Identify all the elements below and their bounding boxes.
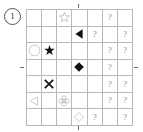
question-mark-icon: ? xyxy=(108,62,112,71)
question-mark-icon: ? xyxy=(123,46,127,55)
right-center-tick xyxy=(134,67,138,68)
grid-cell-unknown-r4c6[interactable]: ? xyxy=(103,60,118,77)
puzzle-index-badge: 1 xyxy=(4,8,21,25)
star-filled-icon xyxy=(43,44,56,57)
grid-cell-empty-r5c4[interactable] xyxy=(72,76,87,93)
grid-cell-unknown-r5c7[interactable]: ? xyxy=(118,76,133,93)
cross-x-filled-icon xyxy=(43,78,55,90)
grid-cell-shape-r3c2[interactable] xyxy=(42,43,57,60)
puzzle-grid[interactable]: ???????????? xyxy=(26,9,133,126)
grid-cell-unknown-r7c7[interactable]: ? xyxy=(118,109,133,126)
question-mark-icon: ? xyxy=(108,46,112,55)
question-mark-icon: ? xyxy=(123,29,127,38)
grid-cell-empty-r4c2[interactable] xyxy=(42,60,57,77)
question-mark-icon: ? xyxy=(123,79,127,88)
grid-cell-empty-r6c2[interactable] xyxy=(42,93,57,110)
grid-cell-empty-r1c2[interactable] xyxy=(42,10,57,27)
left-center-tick xyxy=(20,67,24,68)
question-mark-icon: ? xyxy=(93,29,97,38)
grid-cell-empty-r6c4[interactable] xyxy=(72,93,87,110)
flower-outline-icon xyxy=(58,95,70,107)
grid-cell-unknown-r6c7[interactable]: ? xyxy=(118,93,133,110)
triangle-left-filled-icon xyxy=(73,28,85,40)
triangle-left-outline-icon xyxy=(28,95,40,107)
grid-cell-unknown-r2c7[interactable]: ? xyxy=(118,27,133,44)
grid-cell-empty-r4c3[interactable] xyxy=(57,60,72,77)
grid-cell-empty-r1c4[interactable] xyxy=(72,10,87,27)
grid-cell-shape-r2c4[interactable] xyxy=(72,27,87,44)
grid-cell-empty-r7c2[interactable] xyxy=(42,109,57,126)
grid-cell-shape-r5c2[interactable] xyxy=(42,76,57,93)
grid-cell-unknown-r6c6[interactable]: ? xyxy=(103,93,118,110)
grid-cell-unknown-r3c6[interactable]: ? xyxy=(103,43,118,60)
grid-cell-empty-r3c4[interactable] xyxy=(72,43,87,60)
question-mark-icon: ? xyxy=(93,112,97,121)
puzzle-canvas: 1 ???????????? xyxy=(0,0,143,132)
question-mark-icon: ? xyxy=(108,96,112,105)
grid-cell-empty-r3c3[interactable] xyxy=(57,43,72,60)
grid-cell-unknown-r7c5[interactable]: ? xyxy=(88,109,103,126)
question-mark-icon: ? xyxy=(123,96,127,105)
grid-cell-shape-r4c4[interactable] xyxy=(72,60,87,77)
grid-cell-empty-r2c6[interactable] xyxy=(103,27,118,44)
top-center-tick xyxy=(78,4,79,8)
grid-cell-empty-r7c6[interactable] xyxy=(103,109,118,126)
question-mark-icon: ? xyxy=(123,112,127,121)
question-mark-icon: ? xyxy=(108,79,112,88)
grid-cell-empty-r1c1[interactable] xyxy=(27,10,42,27)
grid-cell-shape-r6c1[interactable] xyxy=(27,93,42,110)
grid-cell-empty-r1c7[interactable] xyxy=(118,10,133,27)
grid-cell-empty-r5c3[interactable] xyxy=(57,76,72,93)
grid-cell-empty-r1c5[interactable] xyxy=(88,10,103,27)
grid-cell-empty-r5c1[interactable] xyxy=(27,76,42,93)
circle-outline-icon xyxy=(28,44,41,57)
grid-cell-shape-r7c4[interactable] xyxy=(72,109,87,126)
grid-cell-unknown-r1c6[interactable]: ? xyxy=(103,10,118,27)
bottom-center-tick xyxy=(78,126,79,130)
grid-cell-empty-r6c5[interactable] xyxy=(88,93,103,110)
grid-cell-empty-r7c1[interactable] xyxy=(27,109,42,126)
grid-cell-unknown-r5c6[interactable]: ? xyxy=(103,76,118,93)
grid-cell-empty-r3c5[interactable] xyxy=(88,43,103,60)
grid-cell-empty-r4c5[interactable] xyxy=(88,60,103,77)
grid-cell-empty-r4c7[interactable] xyxy=(118,60,133,77)
grid-cell-empty-r4c1[interactable] xyxy=(27,60,42,77)
grid-cell-empty-r2c2[interactable] xyxy=(42,27,57,44)
grid-cell-unknown-r2c5[interactable]: ? xyxy=(88,27,103,44)
star-outline-icon xyxy=(58,11,71,24)
diamond-outline-icon xyxy=(73,111,85,123)
grid-cell-empty-r5c5[interactable] xyxy=(88,76,103,93)
grid-cell-empty-r2c1[interactable] xyxy=(27,27,42,44)
diamond-filled-icon xyxy=(73,61,85,73)
grid-cell-shape-r3c1[interactable] xyxy=(27,43,42,60)
grid-cell-shape-r1c3[interactable] xyxy=(57,10,72,27)
question-mark-icon: ? xyxy=(108,13,112,22)
grid-cell-empty-r2c3[interactable] xyxy=(57,27,72,44)
grid-cell-empty-r7c3[interactable] xyxy=(57,109,72,126)
grid-cell-unknown-r3c7[interactable]: ? xyxy=(118,43,133,60)
puzzle-index-label: 1 xyxy=(10,12,15,21)
grid-cell-shape-r6c3[interactable] xyxy=(57,93,72,110)
